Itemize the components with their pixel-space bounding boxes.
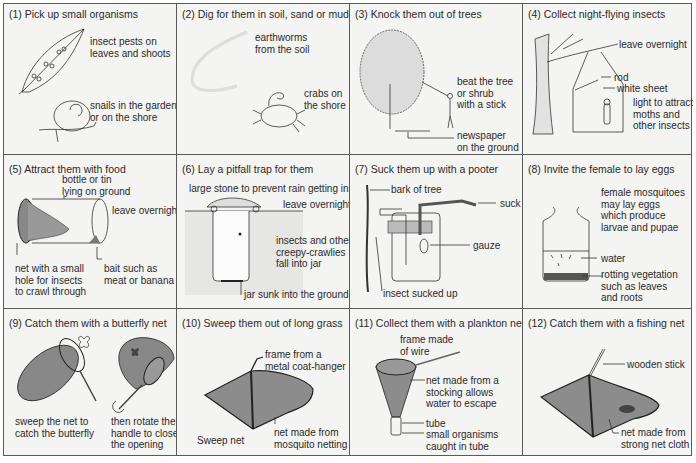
panel-pooter: (7) Suck them up with a pooter bark of t… [350,155,522,308]
crab-icon [253,93,305,132]
label-bottle: bottle or tin lying on ground [62,174,130,197]
label-leave-overnight: leave overnight [112,205,176,217]
label-crabs: crabs on the shore [304,88,346,111]
panel-sweep-grass: (10) Sweep them out of long grass frame … [177,309,349,457]
label-insects-fall: insects and other creepy-crawlies fall i… [276,235,349,270]
pitfall-trap-illustration [177,155,349,308]
panel-dig: (2) Dig for them in soil, sand or mud ea… [177,4,349,154]
label-bark: bark of tree [391,184,442,196]
panel-fishing-net: (12) Catch them with a fishing net woode… [523,309,693,457]
panel-pick-up: (1) Pick up small organisms insect pests… [4,4,176,154]
label-stocking-net: net made from a stocking allows water to… [426,375,499,410]
collection-methods-chart: (1) Pick up small organisms insect pests… [3,3,692,456]
panel-night-insects: (4) Collect night-flying insects leave o… [523,4,693,154]
earthworm-and-crab-illustration [177,4,349,154]
butterfly-net-icon [8,334,96,411]
panel-attract-food: (5) Attract them with food bottle or tin… [4,155,176,308]
label-rod: rod [614,72,628,84]
label-rotate-handle: then rotate the handle to close the open… [111,416,176,451]
label-gauze: gauze [473,240,500,252]
panel-butterfly-net: (9) Catch them with a butterfly net swee… [4,309,176,457]
label-mosquito-netting: net made from mosquito netting [274,427,347,450]
label-frame-wire: frame made of wire [400,334,453,357]
closed-net-icon [113,338,174,413]
label-white-sheet: white sheet [617,83,668,95]
leaf-and-snail-illustration [4,4,176,154]
label-jar-sunk: jar sunk into the ground [244,289,349,301]
label-snails: snails in the garden or on the shore [90,100,176,123]
label-net-hole: net with a small hole for insects to cra… [15,263,86,298]
label-small-organisms: small organisms caught in tube [426,429,498,452]
tree-trunk-icon [533,34,618,134]
label-net-cloth: net made from strong net cloth [621,427,689,450]
leaf-icon [19,29,84,94]
label-leave-overnight: leave overnight [283,199,349,211]
panel-plankton-net: (11) Collect them with a plankton net fr… [350,309,522,457]
label-rotting-vegetation: rotting vegetation such as leaves and ro… [601,269,678,304]
water-jar-icon [543,207,589,281]
net-icon [18,199,69,243]
label-newspaper: newspaper on the ground [457,130,519,153]
light-trap-illustration [523,4,693,154]
label-insect-sucked: insect sucked up [383,288,458,300]
label-female-mosquitoes: female mosquitoes may lay eggs which pro… [601,187,685,233]
label-frame-coat-hanger: frame from a metal coat-hanger [265,349,346,372]
tree-icon [360,30,424,129]
jar-icon [213,211,249,281]
stone-icon [207,198,261,212]
panel-lay-eggs: (8) Invite the female to lay eggs female… [523,155,693,308]
pooter-jar-icon [380,201,476,281]
pooter-illustration [350,155,522,308]
person-icon [448,94,454,129]
label-leave-overnight: leave overnight [619,39,687,51]
label-light: light to attract moths and other insects [633,97,693,132]
label-earthworms: earthworms from the soil [255,32,309,55]
label-insect-pests: insect pests on leaves and shoots [90,36,171,59]
label-beat-tree: beat the tree or shrub with a stick [457,76,513,111]
snail-icon [39,101,96,142]
butterfly-icon [79,336,90,347]
label-sweep-net: sweep the net to catch the butterfly [15,416,94,439]
panel-knock-trees: (3) Knock them out of trees beat the tre… [350,4,522,154]
label-large-stone: large stone to prevent rain getting in [189,183,349,195]
label-sweep-net-name: Sweep net [197,435,244,447]
label-wooden-stick: wooden stick [627,359,685,371]
label-bait: bait such as meat or banana [104,263,174,286]
lamp-icon [604,99,610,124]
label-tube: tube [426,418,445,430]
label-suck: suck [500,198,521,210]
label-water: water [601,253,625,265]
panel-pitfall-trap: (6) Lay a pitfall trap for them large st… [177,155,349,308]
